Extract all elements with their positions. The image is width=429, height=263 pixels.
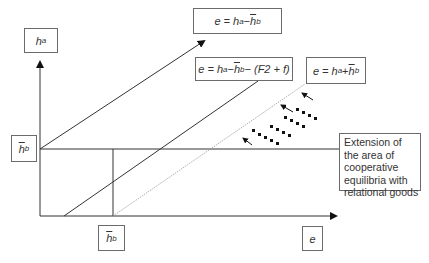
- eq-part: e = h: [214, 15, 239, 27]
- direction-arrow-icon: [302, 93, 313, 100]
- note-line: equilibria with: [344, 174, 416, 187]
- line1-equation-label: e = ha − hb: [193, 8, 282, 34]
- line-e-ha-plus-hb: [113, 84, 305, 216]
- y-axis-label: ha: [24, 28, 58, 53]
- direction-arrow-icon: [281, 105, 293, 112]
- eq-part: e = h: [313, 65, 338, 77]
- x-axis-label: e: [302, 226, 323, 251]
- y-tick-hb-label: hb: [11, 135, 37, 162]
- line-e-ha-minus-hb: [40, 41, 204, 149]
- direction-arrow-icon: [243, 138, 252, 145]
- note-line: Extension of: [344, 136, 416, 149]
- diagram-canvas: [0, 0, 429, 263]
- line2-equation-label: e = ha − hb− (F2 + f): [195, 57, 293, 81]
- note-line: relational goods: [344, 186, 416, 199]
- eq-part: e = h: [198, 63, 223, 75]
- x-tick-hb-label: hb: [98, 225, 125, 251]
- x-tick-sub: b: [112, 234, 116, 243]
- eq-tail: − (F2 + f): [245, 63, 290, 75]
- line3-equation-label: e = ha + hb: [306, 57, 366, 84]
- y-tick-sub: b: [25, 144, 29, 153]
- note-line: the area of: [344, 149, 416, 162]
- eq-sub: b: [355, 66, 359, 75]
- annotation-note: Extension of the area of cooperative equ…: [339, 133, 421, 191]
- eq-sub: b: [256, 17, 260, 26]
- x-axis-label-main: e: [309, 233, 315, 245]
- y-axis-label-sub: a: [42, 36, 46, 45]
- note-line: cooperative: [344, 161, 416, 174]
